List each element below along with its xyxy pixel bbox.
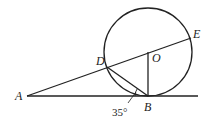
angle-label: 35° (112, 106, 127, 118)
label-e: E (192, 27, 201, 41)
label-o: O (152, 51, 161, 65)
geometry-diagram: A B D O E 35° (0, 0, 210, 124)
label-d: D (95, 54, 105, 68)
diagram-canvas: A B D O E 35° (0, 0, 210, 124)
label-a: A (14, 89, 23, 103)
secant-line-ae (27, 38, 191, 96)
label-b: B (144, 100, 152, 114)
